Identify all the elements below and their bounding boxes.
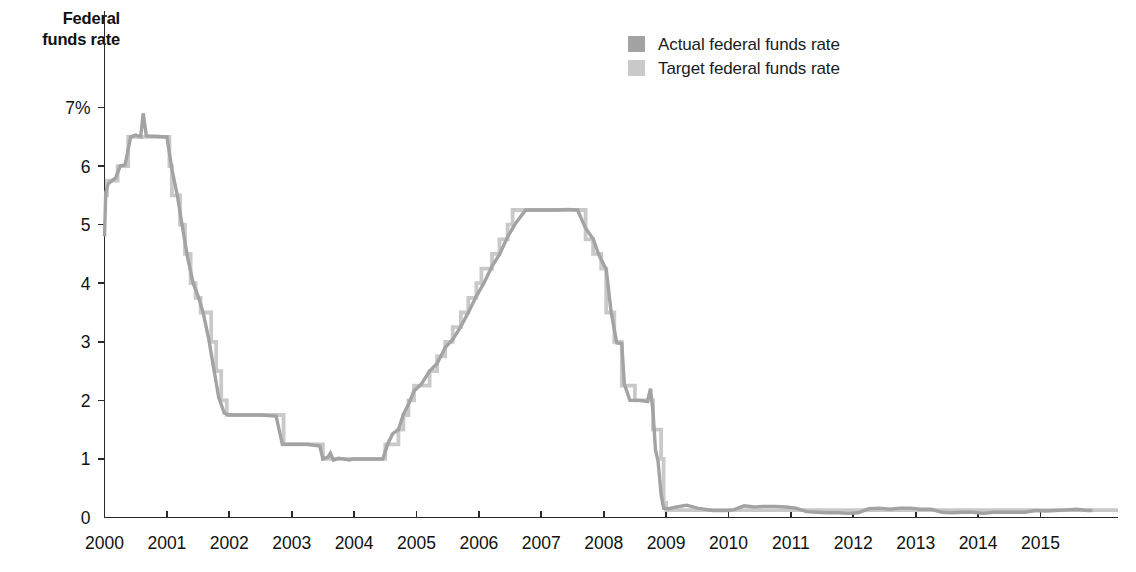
series-line-target [105,137,1119,510]
y-tick-label: 5 [81,215,91,235]
y-tick-labels: 01234567% [65,98,91,528]
x-tick-label: 2012 [834,533,873,553]
x-tick-label: 2011 [772,533,810,553]
x-tick-label: 2009 [647,533,686,553]
y-tick-label: 0 [81,508,91,528]
y-tick-label: 1 [81,449,91,469]
x-tick-label: 2004 [335,533,374,553]
series-line-actual [105,113,1093,513]
x-tick-label: 2013 [896,533,935,553]
x-tick-label: 2014 [959,533,998,553]
y-tick-label: 6 [81,157,91,177]
axis-tick-marks [98,108,1041,518]
axis-lines-path [105,11,1119,518]
y-tick-label: 4 [81,274,91,294]
x-tick-label: 2005 [397,533,436,553]
y-tick-label: 2 [81,391,91,411]
chart-page: Federal funds rate Actual federal funds … [0,0,1136,572]
y-tick-label: 7% [65,98,90,118]
x-tick-label: 2015 [1021,533,1060,553]
x-tick-label: 2006 [459,533,498,553]
axis-lines [105,11,1119,518]
data-series-group [105,113,1119,513]
x-tick-labels: 2000200120022003200420052006200720082009… [85,533,1060,553]
x-tick-label: 2003 [272,533,311,553]
x-tick-label: 2001 [147,533,186,553]
y-tick-label: 3 [81,332,91,352]
x-tick-label: 2010 [709,533,748,553]
x-tick-label: 2002 [210,533,249,553]
plot-area: 01234567% 200020012002200320042005200620… [0,0,1136,572]
x-tick-label: 2008 [584,533,623,553]
chart-canvas: 01234567% 200020012002200320042005200620… [0,0,1136,572]
x-tick-label: 2007 [522,533,561,553]
x-tick-label: 2000 [85,533,124,553]
